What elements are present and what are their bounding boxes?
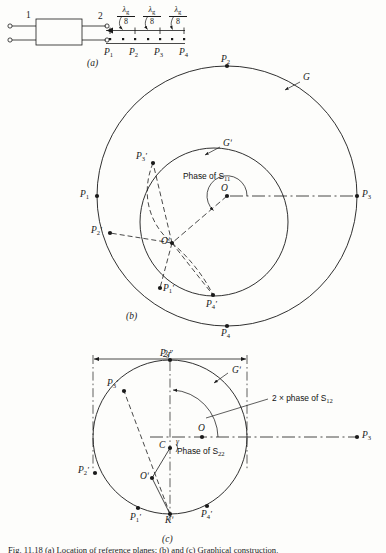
point-O-prime-c — [150, 476, 154, 480]
label-P4-prime-c: P4ʹ — [201, 510, 212, 521]
label-G: G — [303, 73, 310, 83]
phase-2s12-arc — [173, 390, 218, 437]
label-P1-b: P1 — [80, 190, 89, 200]
point-P2-prime-c — [93, 471, 97, 475]
port-1-label: 1 — [26, 11, 31, 21]
point-P3 — [355, 194, 359, 198]
label-P4-prime-b: P4ʹ — [206, 300, 217, 311]
point-P3-prime-c — [122, 389, 126, 393]
panel-b-construction — [95, 64, 359, 328]
chord-Oprime-P3prime — [153, 163, 172, 243]
two-port-network-box — [36, 19, 82, 45]
label-P3-c: P3 — [362, 431, 371, 441]
figure-canvas — [0, 0, 386, 553]
annotation-phase-s22: Phase of S22 — [177, 447, 225, 457]
label-P2-prime-b: P2ʹ — [91, 226, 102, 237]
segment-C-to-Oprime — [152, 448, 170, 478]
port-2-label: 2 — [98, 12, 103, 22]
terminal-1-top — [8, 24, 12, 28]
spacing-label-3: λg 8 — [169, 6, 187, 26]
label-G-prime: Gʹ — [223, 139, 232, 149]
label-P2-b: P2 — [221, 55, 230, 65]
spacing-label-1: λg 8 — [117, 6, 135, 26]
label-O-prime-b: Oʹ — [161, 237, 170, 247]
plane-label-p3: P3 — [154, 48, 163, 58]
point-P2-prime — [108, 231, 112, 235]
panel-c-caption: (c) — [162, 534, 173, 544]
label-C: C — [159, 441, 165, 451]
point-P1-prime — [158, 286, 162, 290]
label-P2-prime-c: P2ʹ — [78, 466, 89, 477]
label-P1-prime-c: P1ʹ — [130, 513, 141, 524]
radius-O-to-Oprime — [172, 196, 227, 243]
spacing-label-2: λg 8 — [143, 6, 161, 26]
label-P1-prime-b: P1ʹ — [163, 284, 174, 295]
construction-arc-left — [147, 163, 213, 295]
label-P3-prime-c: P3ʹ — [107, 379, 118, 390]
label-G-prime-c: Gʹ — [232, 366, 241, 376]
label-P3-prime-b: P3ʹ — [136, 152, 147, 163]
panel-b-caption: (b) — [126, 311, 137, 321]
point-O-prime — [170, 241, 174, 245]
label-P3-b: P3 — [362, 190, 371, 200]
figure-caption: Fig. 11.18 (a) Location of reference pla… — [8, 545, 386, 553]
plane-label-p2: P2 — [129, 48, 138, 58]
chord-Kprime-P3prime — [124, 391, 170, 514]
label-P4-b: P4 — [221, 329, 230, 339]
point-O-c — [200, 435, 204, 439]
label-O-b: O — [221, 184, 228, 194]
label-O-c: O — [198, 424, 205, 434]
leader-2s12 — [206, 399, 268, 418]
terminal-1-bottom — [8, 38, 12, 42]
point-C — [168, 446, 172, 450]
plane-label-p1: P1 — [104, 48, 113, 58]
label-O-prime-c: Oʹ — [140, 472, 149, 482]
point-P1-prime-c — [136, 506, 140, 510]
plane-label-p4: P4 — [179, 48, 188, 58]
label-gamma: γ — [176, 438, 179, 446]
point-P4-prime-c — [205, 504, 209, 508]
phase-s11-annotation: Phase of S11 — [183, 172, 230, 182]
leader-G-prime-c — [214, 373, 228, 383]
panel-a-caption: (a) — [87, 58, 98, 68]
point-O — [225, 194, 229, 198]
label-K-prime: Kʹ — [165, 516, 173, 526]
point-P3-prime — [151, 161, 155, 165]
label-P3-double-prime-c: P3ʺ — [160, 349, 173, 360]
plane-dots — [109, 38, 185, 40]
point-P3-c — [355, 435, 359, 439]
annotation-2x-phase-s12: 2 × phase of S12 — [272, 394, 333, 404]
panel-c-construction — [93, 355, 359, 522]
point-P4-prime — [211, 293, 215, 297]
segment-Oprime-to-Kprime — [152, 478, 170, 514]
point-P1 — [95, 194, 99, 198]
